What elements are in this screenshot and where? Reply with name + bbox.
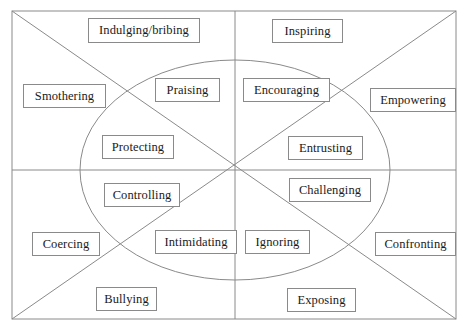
- node-controlling: Controlling: [104, 183, 180, 207]
- node-praising: Praising: [155, 78, 220, 102]
- node-label: Empowering: [380, 94, 446, 107]
- node-label: Encouraging: [254, 84, 319, 97]
- node-indulging-bribing: Indulging/bribing: [88, 18, 200, 43]
- node-smothering: Smothering: [23, 84, 106, 108]
- node-entrusting: Entrusting: [288, 136, 363, 160]
- node-label: Smothering: [35, 90, 94, 103]
- node-label: Controlling: [113, 189, 172, 202]
- node-exposing: Exposing: [287, 288, 356, 312]
- behaviour-quadrant-diagram: Indulging/bribing Inspiring Smothering P…: [0, 0, 466, 331]
- node-encouraging: Encouraging: [243, 78, 330, 102]
- node-label: Challenging: [299, 184, 361, 197]
- node-label: Entrusting: [299, 142, 352, 155]
- node-label: Ignoring: [256, 236, 300, 249]
- diagram-lines-layer: [0, 0, 466, 331]
- node-label: Coercing: [43, 238, 90, 251]
- node-label: Protecting: [112, 141, 164, 154]
- node-label: Intimidating: [165, 236, 228, 249]
- node-challenging: Challenging: [289, 178, 371, 202]
- node-label: Indulging/bribing: [99, 24, 189, 37]
- node-label: Bullying: [104, 293, 149, 306]
- node-confronting: Confronting: [375, 232, 456, 256]
- node-label: Exposing: [297, 294, 345, 307]
- node-ignoring: Ignoring: [245, 230, 310, 254]
- node-coercing: Coercing: [32, 232, 100, 256]
- node-empowering: Empowering: [370, 88, 456, 112]
- node-label: Praising: [167, 84, 209, 97]
- node-inspiring: Inspiring: [272, 19, 343, 43]
- node-intimidating: Intimidating: [155, 230, 237, 254]
- node-protecting: Protecting: [102, 135, 174, 159]
- node-label: Confronting: [384, 238, 446, 251]
- node-label: Inspiring: [284, 25, 330, 38]
- node-bullying: Bullying: [96, 287, 157, 311]
